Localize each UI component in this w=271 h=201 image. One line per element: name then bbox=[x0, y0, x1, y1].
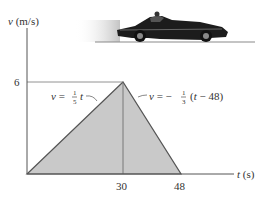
svg-text:1: 1 bbox=[182, 89, 186, 97]
sports-car-icon bbox=[75, 12, 255, 43]
x-tick-30: 30 bbox=[116, 180, 128, 192]
svg-text:v = −: v = − bbox=[149, 90, 172, 102]
svg-text:v =: v = bbox=[51, 90, 65, 102]
velocity-time-diagram: v (m/s) t (s) 6 30 48 v = 1 5 t v = − 1 … bbox=[0, 0, 271, 201]
y-axis-label: v (m/s) bbox=[8, 15, 39, 28]
equation-falling: v = − 1 3 (t − 48) bbox=[138, 89, 223, 106]
svg-text:1: 1 bbox=[73, 89, 77, 97]
equation-rising: v = 1 5 t bbox=[51, 89, 97, 106]
svg-text:5: 5 bbox=[73, 98, 77, 106]
svg-text:t: t bbox=[80, 90, 84, 102]
x-tick-48: 48 bbox=[174, 180, 186, 192]
svg-text:3: 3 bbox=[182, 98, 186, 106]
y-tick-6: 6 bbox=[14, 76, 20, 88]
x-axis-label: t (s) bbox=[237, 168, 255, 181]
svg-text:(t − 48): (t − 48) bbox=[190, 90, 223, 103]
